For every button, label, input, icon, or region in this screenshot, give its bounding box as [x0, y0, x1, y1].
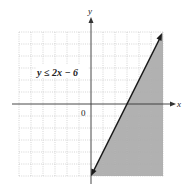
origin-label: 0 [81, 108, 86, 118]
inequality-graph: y x 0 y ≤ 2x − 6 [0, 0, 189, 187]
inequality-label: y ≤ 2x − 6 [36, 67, 78, 78]
y-axis-arrow-icon [89, 17, 94, 23]
y-axis-label: y [87, 6, 92, 16]
line-arrow-top-icon [157, 33, 163, 41]
x-axis-label: x [176, 99, 181, 109]
x-axis-arrow-icon [170, 102, 176, 107]
